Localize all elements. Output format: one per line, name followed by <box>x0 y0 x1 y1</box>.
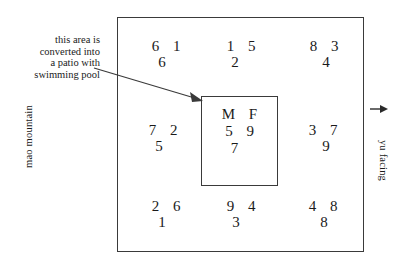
annotation-line-3: a patio with <box>8 57 100 69</box>
cell-west-bottom: 5 <box>128 138 190 154</box>
cell-east-bottom: 9 <box>295 138 357 154</box>
cell-southwest: 2 6 1 <box>135 198 197 230</box>
annotation-text: this area is converted into a patio with… <box>8 34 100 80</box>
annotation-line-1: this area is <box>8 34 100 46</box>
cell-northeast: 8 3 4 <box>293 38 355 70</box>
cell-northwest-bottom: 6 <box>131 54 193 70</box>
cell-northeast-bottom: 4 <box>295 54 357 70</box>
label-mao-mountain: mao mountain <box>23 87 34 187</box>
annotation-line-4: swimming pool <box>8 69 100 81</box>
cell-east: 3 7 9 <box>292 122 354 154</box>
cell-southwest-bottom: 1 <box>131 214 193 230</box>
cell-south-top: 9 4 <box>210 198 272 214</box>
cell-southeast: 4 8 8 <box>292 198 354 230</box>
cell-south-bottom: 3 <box>205 214 267 230</box>
cell-north-bottom: 2 <box>204 54 266 70</box>
cell-south: 9 4 3 <box>210 198 272 230</box>
cell-northeast-top: 8 3 <box>293 38 355 54</box>
cell-west-top: 7 2 <box>132 122 194 138</box>
cell-center-bottom: 7 <box>200 140 269 157</box>
cell-north: 1 5 2 <box>210 38 272 70</box>
cell-southeast-bottom: 8 <box>293 214 355 230</box>
label-yu-facing: yu facing <box>378 111 389 211</box>
cell-northwest: 6 1 6 <box>135 38 197 70</box>
cell-north-top: 1 5 <box>210 38 272 54</box>
cell-southwest-top: 2 6 <box>135 198 197 214</box>
flying-star-chart-diagram: this area is converted into a patio with… <box>0 0 401 269</box>
cell-center-letters: M F <box>205 106 274 123</box>
cell-southeast-top: 4 8 <box>292 198 354 214</box>
cell-northwest-top: 6 1 <box>135 38 197 54</box>
cell-east-top: 3 7 <box>292 122 354 138</box>
annotation-line-2: converted into <box>8 46 100 58</box>
cell-west: 7 2 5 <box>132 122 194 154</box>
cell-center: M F 5 9 7 <box>205 106 274 157</box>
cell-center-middle: 5 9 <box>205 123 274 140</box>
